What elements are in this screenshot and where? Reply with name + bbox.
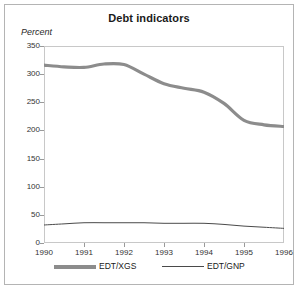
x-tick-label: 1992	[115, 248, 133, 257]
y-tick-mark	[40, 46, 44, 47]
x-tick-label: 1996	[275, 248, 293, 257]
y-tick-label: 300	[18, 70, 40, 78]
chart-legend: EDT/XGS EDT/GNP	[4, 262, 294, 278]
y-tick-label: 100	[18, 183, 40, 191]
x-tick-label: 1990	[35, 248, 53, 257]
y-tick-label: 250	[18, 98, 40, 106]
x-tick-mark	[124, 243, 125, 247]
x-tick-label: 1994	[195, 248, 213, 257]
x-tick-mark	[204, 243, 205, 247]
x-axis-tick-labels: 1990199119921993199419951996	[44, 243, 284, 259]
y-tick-label: 200	[18, 126, 40, 134]
legend-item-edt-gnp: EDT/GNP	[162, 262, 245, 271]
chart-title: Debt indicators	[0, 12, 298, 24]
y-tick-mark	[40, 159, 44, 160]
y-tick-mark	[40, 74, 44, 75]
x-tick-mark	[244, 243, 245, 247]
y-tick-mark	[40, 102, 44, 103]
plot-area	[44, 46, 284, 243]
y-tick-mark	[40, 130, 44, 131]
legend-swatch-icon	[54, 265, 96, 269]
y-tick-label: 350	[18, 42, 40, 50]
legend-label: EDT/GNP	[207, 262, 245, 271]
y-tick-mark	[40, 243, 44, 244]
series-line-edt-xgs	[44, 63, 284, 126]
x-tick-mark	[164, 243, 165, 247]
y-axis-tick-labels: 050100150200250300350	[14, 46, 40, 243]
x-tick-label: 1993	[155, 248, 173, 257]
legend-swatch-icon	[162, 266, 204, 267]
y-tick-label: 50	[18, 211, 40, 219]
legend-item-edt-xgs: EDT/XGS	[54, 262, 136, 271]
series-line-edt-gnp	[44, 223, 284, 229]
chart-figure: Debt indicators Percent 0501001502002503…	[0, 0, 298, 289]
y-tick-mark	[40, 187, 44, 188]
series-canvas	[44, 46, 284, 243]
y-tick-label: 0	[18, 239, 40, 247]
x-tick-mark	[84, 243, 85, 247]
y-tick-mark	[40, 215, 44, 216]
legend-label: EDT/XGS	[99, 262, 136, 271]
x-tick-label: 1995	[235, 248, 253, 257]
y-axis-label: Percent	[21, 27, 52, 37]
x-tick-label: 1991	[75, 248, 93, 257]
y-tick-label: 150	[18, 155, 40, 163]
